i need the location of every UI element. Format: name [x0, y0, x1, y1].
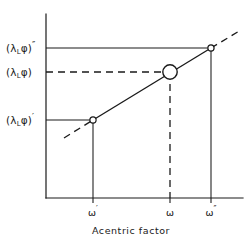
x-tick-label-omega-double-prime: ω″	[201, 206, 221, 217]
y-label-phi-upper: φ	[21, 42, 28, 54]
data-point-omega-interpolated	[163, 65, 177, 79]
data-point-omega-prime	[90, 117, 96, 123]
y-axis-label-lambda-phi-lower: (λLφ)′	[6, 113, 34, 128]
y-label-prime-lower: ′	[32, 112, 34, 122]
y-label-phi-mid: φ	[21, 66, 28, 78]
trend-extrapolation-upper	[211, 30, 241, 48]
x-axis-title: Acentric factor	[76, 226, 186, 236]
y-axis-label-lambda-phi-mid: (λLφ)	[6, 65, 32, 80]
x-tick-label-omega-prime: ω′	[83, 206, 103, 217]
y-axis-label-lambda-phi-upper: (λLφ)″	[6, 41, 36, 56]
figure-container: (λLφ)″ (λLφ) (λLφ)′ ω′ ω ω″ Acentric fac…	[0, 0, 251, 241]
x-tick-omega-glyph-2: ω	[166, 207, 174, 218]
y-label-phi-lower: φ	[21, 114, 28, 126]
data-point-omega-double-prime	[208, 45, 214, 51]
x-tick-prime-glyph-3: ″	[213, 205, 216, 214]
y-label-close-paren-mid: )	[28, 66, 32, 78]
x-tick-label-omega: ω	[160, 206, 180, 217]
x-tick-omega-glyph-1: ω	[88, 207, 96, 218]
trend-line-solid	[93, 48, 211, 120]
y-label-prime-upper: ″	[32, 40, 36, 50]
trend-extrapolation-lower	[64, 120, 93, 138]
x-tick-prime-glyph-1: ′	[96, 205, 98, 214]
